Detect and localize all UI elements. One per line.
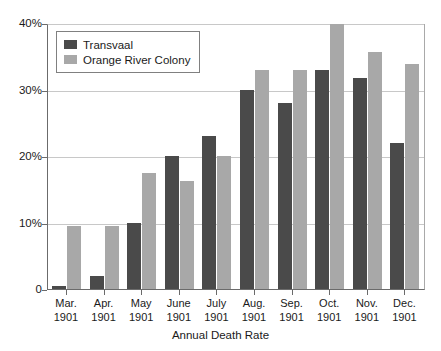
legend-item: Orange River Colony — [64, 52, 190, 67]
x-tick-mark — [367, 290, 368, 295]
x-tick-label-month: Oct. — [319, 297, 339, 309]
bar-chart: 010%20%30%40% Mar.1901Apr.1901May1901Jun… — [0, 0, 441, 351]
x-tick-label-month: Nov. — [356, 297, 378, 309]
bar — [90, 276, 104, 289]
legend-swatch — [64, 55, 77, 64]
x-tick-label-month: Sep. — [280, 297, 303, 309]
x-tick-label-month: Apr. — [94, 297, 114, 309]
bar — [293, 70, 307, 289]
bar — [180, 181, 194, 289]
x-tick-mark — [179, 290, 180, 295]
x-tick-mark — [329, 290, 330, 295]
x-tick-mark — [292, 290, 293, 295]
bar — [255, 70, 269, 289]
y-tick-label: 0 — [2, 284, 42, 296]
y-tick-label: 20% — [2, 151, 42, 163]
bar — [278, 103, 292, 289]
bar — [52, 286, 66, 289]
x-tick-label-year: 1901 — [377, 311, 431, 325]
legend-label: Transvaal — [83, 39, 133, 51]
legend-label: Orange River Colony — [83, 54, 190, 66]
x-axis-title: Annual Death Rate — [0, 329, 441, 341]
bar — [315, 70, 329, 289]
x-tick-label-month: June — [167, 297, 191, 309]
x-tick-label-month: Dec. — [393, 297, 416, 309]
bar — [390, 143, 404, 289]
bar — [240, 90, 254, 290]
bar — [405, 64, 419, 289]
bar — [330, 24, 344, 289]
bar — [127, 223, 141, 290]
y-tick-mark — [42, 290, 47, 291]
x-tick-label: Dec.1901 — [377, 297, 431, 324]
x-tick-mark — [141, 290, 142, 295]
bar — [165, 156, 179, 289]
chart-legend: TransvaalOrange River Colony — [56, 31, 200, 73]
x-tick-label-month: July — [207, 297, 227, 309]
x-tick-mark — [216, 290, 217, 295]
y-tick-label: 10% — [2, 218, 42, 230]
x-tick-mark — [404, 290, 405, 295]
bar — [217, 156, 231, 289]
x-tick-mark — [66, 290, 67, 295]
bar — [105, 226, 119, 289]
legend-item: Transvaal — [64, 37, 190, 52]
x-tick-label-month: May — [131, 297, 152, 309]
y-tick-label: 30% — [2, 85, 42, 97]
x-tick-label-month: Mar. — [55, 297, 76, 309]
bar — [202, 136, 216, 289]
x-tick-label-month: Aug. — [243, 297, 266, 309]
legend-swatch — [64, 40, 77, 49]
bar — [353, 78, 367, 289]
bar — [67, 226, 81, 289]
bar — [142, 173, 156, 289]
x-tick-mark — [254, 290, 255, 295]
x-tick-mark — [104, 290, 105, 295]
y-tick-label: 40% — [2, 18, 42, 30]
bar — [368, 52, 382, 289]
